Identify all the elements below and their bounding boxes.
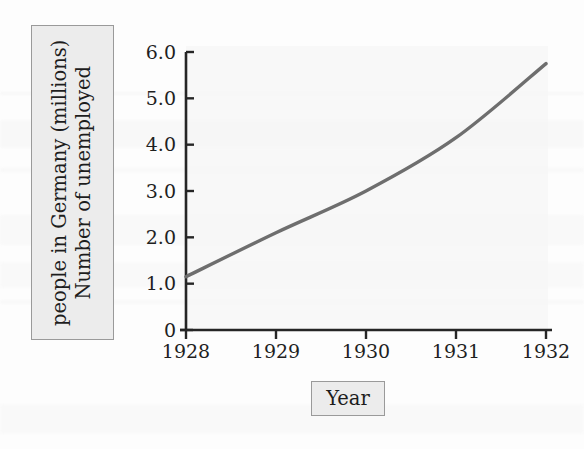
y-axis-tick-label: 3.0 [146, 180, 176, 202]
x-axis-tick-label: 1929 [252, 340, 300, 362]
y-axis-tick-labels: 01.02.03.04.05.06.0 [146, 41, 176, 341]
unemployment-line-chart-figure: Number of unemployed people in Germany (… [0, 0, 584, 449]
y-axis-tick-label: 0 [164, 319, 176, 341]
x-axis-tick-labels: 19281929193019311932 [162, 340, 570, 362]
y-axis-tick-label: 6.0 [146, 41, 176, 63]
y-axis-tick-label: 2.0 [146, 226, 176, 248]
y-axis-tick-label: 5.0 [146, 87, 176, 109]
x-axis-tick-label: 1931 [432, 340, 480, 362]
x-axis-tick-label: 1928 [162, 340, 210, 362]
x-axis-tick-label: 1930 [342, 340, 390, 362]
y-axis-tick-label: 1.0 [146, 272, 176, 294]
x-axis-tick-marks [186, 330, 546, 339]
x-axis-tick-label: 1932 [522, 340, 570, 362]
y-axis-tick-label: 4.0 [146, 133, 176, 155]
chart-plot: 01.02.03.04.05.06.0 19281929193019311932 [0, 0, 584, 449]
data-series-line [186, 64, 546, 277]
